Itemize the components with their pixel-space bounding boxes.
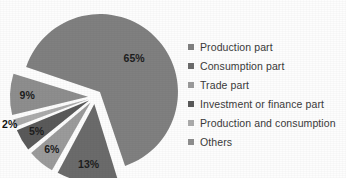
chart-legend: Production part Consumption part Trade p… [188,37,346,151]
legend-swatch-icon [188,63,194,69]
pie-slice-value-label: 13% [78,158,100,170]
legend-item-consumption-part[interactable]: Consumption part [188,56,346,75]
pie-chart-plot-area: 65%13%6%5%2%9% [0,0,185,178]
legend-swatch-icon [188,101,194,107]
legend-item-production-part[interactable]: Production part [188,37,346,56]
pie-slice-value-label: 5% [29,125,45,137]
pie-slice-group [10,14,178,178]
legend-item-label: Others [200,136,232,148]
legend-swatch-icon [188,44,194,50]
legend-item-label: Consumption part [200,60,284,72]
legend-item-label: Production part [200,41,273,53]
pie-slice-value-label: 9% [20,89,36,101]
legend-item-label: Investment or finance part [200,98,324,110]
legend-item-investment-or-finance-part[interactable]: Investment or finance part [188,94,346,113]
legend-swatch-icon [188,139,194,145]
legend-swatch-icon [188,120,194,126]
legend-item-label: Trade part [200,79,249,91]
legend-item-others[interactable]: Others [188,132,346,151]
pie-slice-value-label: 2% [2,118,18,130]
pie-chart-svg: 65%13%6%5%2%9% [0,0,185,178]
pie-slice-value-label: 6% [44,143,60,155]
pie-chart-figure: 65%13%6%5%2%9% Production part Consumpti… [0,0,346,178]
legend-item-label: Production and consumption [200,117,336,129]
legend-item-trade-part[interactable]: Trade part [188,75,346,94]
pie-slice-value-label: 65% [124,52,146,64]
legend-item-production-and-consumption[interactable]: Production and consumption [188,113,346,132]
legend-swatch-icon [188,82,194,88]
